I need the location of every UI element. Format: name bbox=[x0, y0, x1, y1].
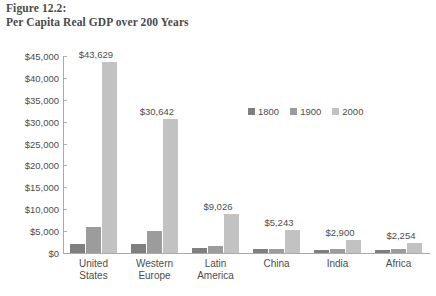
figure-number: Figure 12.2: bbox=[6, 2, 189, 16]
bar-group-bars bbox=[124, 56, 185, 253]
x-axis-category-label-line: United bbox=[63, 258, 124, 270]
x-axis-category-label-line: States bbox=[63, 270, 124, 282]
bar-group: $30,642 bbox=[124, 56, 185, 253]
bar-1900[interactable] bbox=[391, 249, 406, 253]
legend-item[interactable]: 1900 bbox=[290, 106, 321, 117]
bar-1800[interactable] bbox=[375, 250, 390, 253]
legend-item[interactable]: 1800 bbox=[248, 106, 279, 117]
bar-group: $5,243 bbox=[246, 56, 307, 253]
y-axis-labels: $0$5,000$10,000$15,000$20,000$25,000$30,… bbox=[0, 30, 59, 296]
bar-group: $43,629 bbox=[63, 56, 124, 253]
legend-swatch-icon bbox=[332, 108, 339, 115]
y-axis-tick-label: $0 bbox=[3, 248, 59, 259]
y-axis-tick-label: $5,000 bbox=[3, 226, 59, 237]
legend-item[interactable]: 2000 bbox=[332, 106, 363, 117]
y-axis-tick-label: $30,000 bbox=[3, 116, 59, 127]
bar-group: $2,254 bbox=[368, 56, 429, 253]
y-axis-tick-label: $25,000 bbox=[3, 138, 59, 149]
figure-title: Per Capita Real GDP over 200 Years bbox=[6, 16, 189, 30]
bar-2000[interactable] bbox=[407, 243, 422, 253]
x-axis-category-label-line: India bbox=[307, 258, 368, 270]
y-axis-tick-label: $15,000 bbox=[3, 182, 59, 193]
bar-value-label: $30,642 bbox=[140, 106, 174, 117]
bar-value-label: $43,629 bbox=[79, 49, 113, 60]
bar-value-label: $5,243 bbox=[264, 217, 293, 228]
bar-1900[interactable] bbox=[147, 231, 162, 253]
x-axis-category-label-line: Latin bbox=[185, 258, 246, 270]
bar-group-bars bbox=[307, 56, 368, 253]
bar-1800[interactable] bbox=[253, 249, 268, 253]
bar-group-bars bbox=[63, 56, 124, 253]
x-axis-category-label-line: China bbox=[246, 258, 307, 270]
bar-group-bars bbox=[368, 56, 429, 253]
x-axis-line bbox=[63, 253, 430, 254]
bar-1900[interactable] bbox=[86, 227, 101, 253]
x-axis-category-label-line: Africa bbox=[368, 258, 429, 270]
legend-label: 1900 bbox=[300, 106, 321, 117]
x-axis-category-label-line: Europe bbox=[124, 270, 185, 282]
y-axis-tick-label: $40,000 bbox=[3, 72, 59, 83]
bar-2000[interactable] bbox=[285, 230, 300, 253]
x-axis-category-label: UnitedStates bbox=[63, 258, 124, 281]
bar-2000[interactable] bbox=[102, 62, 117, 253]
legend-swatch-icon bbox=[248, 108, 255, 115]
x-axis-category-label-line: Western bbox=[124, 258, 185, 270]
x-axis-category-label: Africa bbox=[368, 258, 429, 270]
x-axis-category-label: China bbox=[246, 258, 307, 270]
x-axis-category-label: WesternEurope bbox=[124, 258, 185, 281]
bar-value-label: $2,254 bbox=[386, 230, 415, 241]
x-axis-category-label-line: America bbox=[185, 270, 246, 282]
bar-group: $9,026 bbox=[185, 56, 246, 253]
bar-1900[interactable] bbox=[208, 246, 223, 253]
y-axis-tick-label: $45,000 bbox=[3, 51, 59, 62]
bar-2000[interactable] bbox=[346, 240, 361, 253]
bar-1900[interactable] bbox=[330, 249, 345, 253]
bar-1900[interactable] bbox=[269, 249, 284, 253]
bar-2000[interactable] bbox=[163, 119, 178, 253]
legend-label: 1800 bbox=[258, 106, 279, 117]
figure-caption: Figure 12.2: Per Capita Real GDP over 20… bbox=[6, 2, 189, 29]
bar-2000[interactable] bbox=[224, 214, 239, 254]
legend-swatch-icon bbox=[290, 108, 297, 115]
bar-1800[interactable] bbox=[314, 250, 329, 253]
y-axis-tick-label: $10,000 bbox=[3, 204, 59, 215]
y-axis-tick-label: $35,000 bbox=[3, 94, 59, 105]
bar-value-label: $2,900 bbox=[325, 227, 354, 238]
bar-1800[interactable] bbox=[70, 244, 85, 253]
x-axis-category-label: India bbox=[307, 258, 368, 270]
y-axis-tick-label: $20,000 bbox=[3, 160, 59, 171]
bar-1800[interactable] bbox=[192, 248, 207, 253]
bar-1800[interactable] bbox=[131, 244, 146, 253]
chart-legend: 180019002000 bbox=[248, 106, 363, 117]
bar-group-bars bbox=[185, 56, 246, 253]
bar-group: $2,900 bbox=[307, 56, 368, 253]
legend-label: 2000 bbox=[342, 106, 363, 117]
plot-area: $43,629$30,642$9,026$5,243$2,900$2,254 bbox=[63, 56, 429, 253]
x-axis-category-label: LatinAmerica bbox=[185, 258, 246, 281]
bar-chart: $0$5,000$10,000$15,000$20,000$25,000$30,… bbox=[0, 30, 436, 296]
bar-value-label: $9,026 bbox=[203, 201, 232, 212]
